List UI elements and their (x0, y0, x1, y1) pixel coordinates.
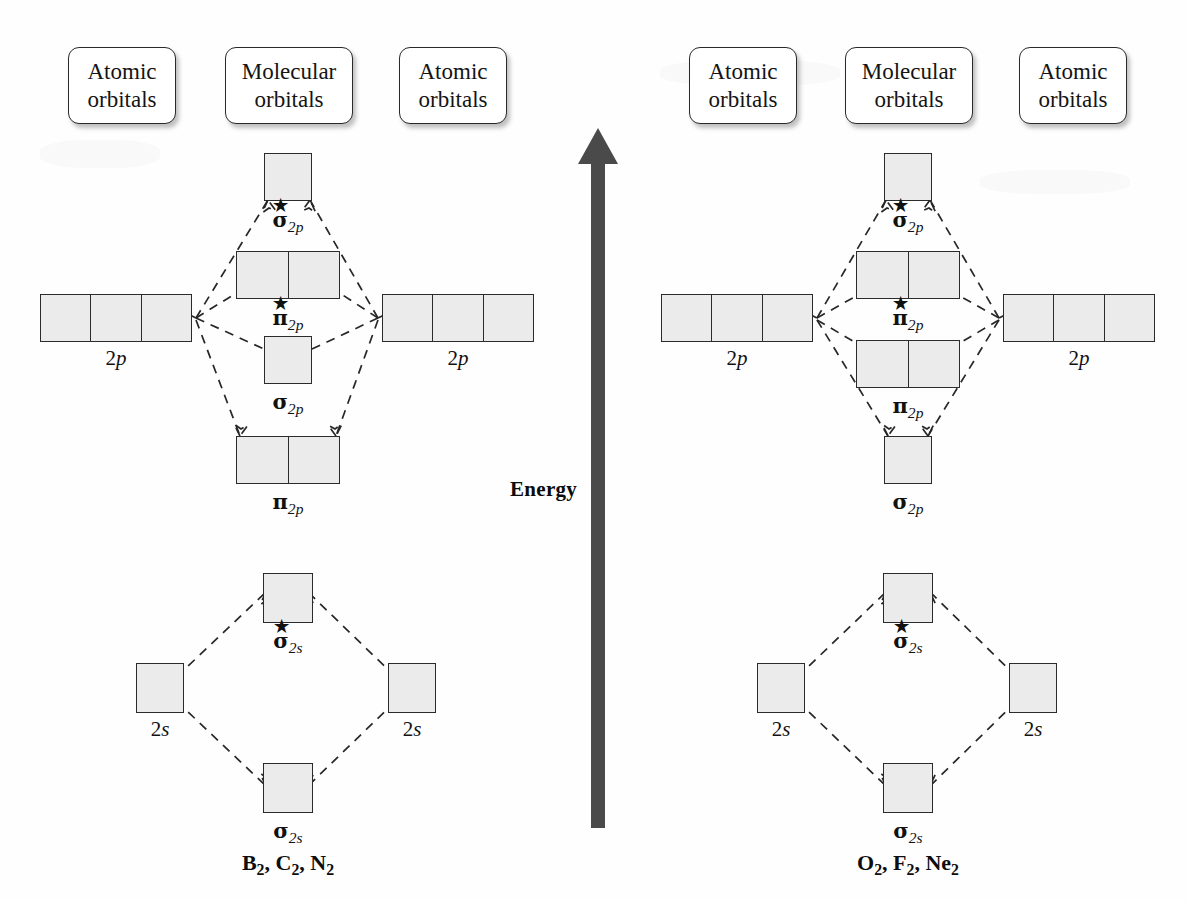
pill-line-1: Molecular (242, 58, 337, 85)
orbital-cell (857, 252, 909, 298)
ao-label-2p-left-left: 2p (106, 346, 127, 371)
orbital-cell (383, 295, 433, 341)
header-pill-atomic-orbitals-right-2: Atomic orbitals (1019, 47, 1127, 124)
mo-label-pi-2p-right: π2p (892, 393, 923, 419)
pill-line-2: orbitals (1039, 86, 1108, 113)
header-pill-atomic-orbitals-right-1: Atomic orbitals (689, 47, 797, 124)
orbital-cell (712, 295, 762, 341)
orbital-cell (41, 295, 91, 341)
pill-line-1: Atomic (1039, 58, 1108, 85)
orbital-cell (909, 341, 960, 387)
mo-box-sigma-2s-left (263, 763, 313, 813)
mo-label-sigma-2p-right: σ2p (892, 489, 923, 515)
ao-label-2p-right-right: 2p (1069, 346, 1090, 371)
ao-box-2s-left-left (136, 663, 184, 713)
mo-box-pi-star-2p-right (856, 251, 960, 299)
ao-box-2s-left-right (388, 663, 436, 713)
mo-diagram-figure: Atomic orbitals Molecular orbitals Atomi… (0, 0, 1188, 901)
mo-label-sigma-2p-left: σ2p (272, 389, 303, 415)
ao-label-2s-right-left: 2s (772, 717, 791, 742)
orbital-cell (763, 295, 812, 341)
header-pill-molecular-orbitals-right: Molecular orbitals (845, 47, 973, 124)
orbital-cell (289, 252, 340, 298)
pill-line-2: orbitals (255, 86, 324, 113)
mo-label-pi-star-2p-left: π★2p (272, 305, 303, 331)
ao-box-2s-right-left (757, 663, 805, 713)
orbital-cell (289, 437, 340, 483)
orbital-cell (484, 295, 533, 341)
ao-box-2p-left-right (382, 294, 534, 342)
orbital-cell (137, 664, 183, 712)
caption-part: B2, C2, N2 (242, 850, 334, 875)
header-pill-molecular-orbitals-left: Molecular orbitals (225, 47, 353, 124)
header-pill-atomic-orbitals-left-1: Atomic orbitals (68, 47, 176, 124)
mo-label-sigma-star-2p-left: σ★2p (272, 207, 303, 233)
mo-box-sigma-2s-right (883, 763, 933, 813)
pill-line-1: Atomic (419, 58, 488, 85)
ao-label-2s-right-right: 2s (1024, 717, 1043, 742)
orbital-cell (1105, 295, 1154, 341)
orbital-cell (885, 437, 931, 483)
pill-line-1: Molecular (862, 58, 957, 85)
caption-part: O2, F2, Ne2 (857, 850, 959, 875)
energy-axis-arrow (578, 128, 618, 828)
ao-box-2s-right-right (1009, 663, 1057, 713)
mo-box-sigma-2p-left (264, 336, 312, 384)
orbital-cell (884, 764, 932, 812)
orbital-cell (264, 764, 312, 812)
mo-box-pi-star-2p-left (236, 251, 340, 299)
orbital-cell (91, 295, 141, 341)
pill-line-2: orbitals (875, 86, 944, 113)
scan-artifact (40, 140, 160, 168)
orbital-cell (662, 295, 712, 341)
mo-label-sigma-star-2s-left: σ★2s (273, 628, 303, 654)
orbital-cell (265, 154, 311, 200)
orbital-cell (265, 337, 311, 383)
orbital-cell (1054, 295, 1104, 341)
mo-label-pi-star-2p-right: π★2p (892, 305, 923, 331)
orbital-cell (389, 664, 435, 712)
orbital-cell (142, 295, 191, 341)
orbital-cell (237, 252, 289, 298)
mo-box-sigma-star-2p-right (884, 153, 932, 201)
diagram-caption-right: O2, F2, Ne2 (857, 850, 959, 876)
pill-line-1: Atomic (709, 58, 778, 85)
mo-box-sigma-star-2p-left (264, 153, 312, 201)
orbital-cell (758, 664, 804, 712)
mo-box-pi-2p-right (856, 340, 960, 388)
mo-box-pi-2p-left (236, 436, 340, 484)
mo-box-sigma-2p-right (884, 436, 932, 484)
orbital-cell (237, 437, 289, 483)
ao-label-2p-right-left: 2p (727, 346, 748, 371)
header-pill-atomic-orbitals-left-2: Atomic orbitals (399, 47, 507, 124)
orbital-cell (884, 574, 932, 622)
pill-line-2: orbitals (709, 86, 778, 113)
mo-label-sigma-star-2s-right: σ★2s (893, 628, 923, 654)
ao-label-2s-left-right: 2s (403, 717, 422, 742)
energy-axis-label: Energy (510, 477, 577, 502)
pill-line-1: Atomic (88, 58, 157, 85)
orbital-cell (1004, 295, 1054, 341)
ao-label-2s-left-left: 2s (151, 717, 170, 742)
orbital-cell (885, 154, 931, 200)
diagram-caption-left: B2, C2, N2 (242, 850, 334, 876)
ao-box-2p-right-left (661, 294, 813, 342)
pill-line-2: orbitals (419, 86, 488, 113)
mo-label-sigma-2s-left: σ2s (273, 818, 303, 844)
pill-line-2: orbitals (88, 86, 157, 113)
scan-artifact (980, 170, 1130, 194)
orbital-cell (433, 295, 483, 341)
orbital-cell (857, 341, 909, 387)
mo-label-pi-2p-left: π2p (272, 489, 303, 515)
orbital-cell (909, 252, 960, 298)
mo-label-sigma-star-2p-right: σ★2p (892, 207, 923, 233)
ao-box-2p-left-left (40, 294, 192, 342)
orbital-cell (1010, 664, 1056, 712)
ao-label-2p-left-right: 2p (448, 346, 469, 371)
ao-box-2p-right-right (1003, 294, 1155, 342)
orbital-cell (264, 574, 312, 622)
mo-label-sigma-2s-right: σ2s (893, 818, 923, 844)
